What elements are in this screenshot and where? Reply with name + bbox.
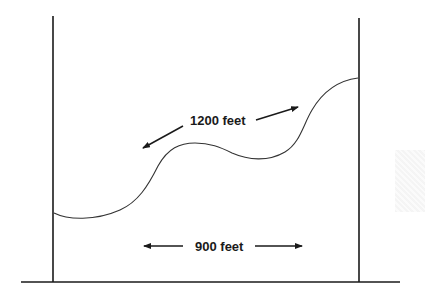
cable-length-label: 1200 feet <box>190 113 246 128</box>
cable-curve <box>54 78 358 218</box>
span-length-label: 900 feet <box>195 239 244 254</box>
cable-diagram: 1200 feet 900 feet <box>0 0 425 300</box>
arrow-up-right-icon <box>256 107 298 120</box>
arrow-down-left-icon <box>143 126 183 148</box>
